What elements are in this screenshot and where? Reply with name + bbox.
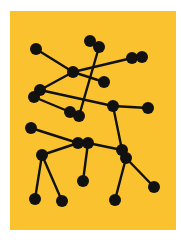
node-dot [120,152,132,164]
node-dot [109,194,121,206]
node-dot [77,175,89,187]
node-dot [30,43,42,55]
node-dot [28,91,40,103]
node-dot [73,110,85,122]
network-graph-illustration [0,0,181,240]
node-dot [29,193,41,205]
node-dot [56,195,68,207]
node-dot [25,122,37,134]
node-dot [67,66,79,78]
node-dot [142,102,154,114]
node-dot [148,181,160,193]
node-dot [36,149,48,161]
node-dot [136,51,148,63]
node-dot [98,76,110,88]
node-dot [107,100,119,112]
node-dot [93,41,105,53]
network-artwork [0,0,181,240]
node-dot [82,137,94,149]
